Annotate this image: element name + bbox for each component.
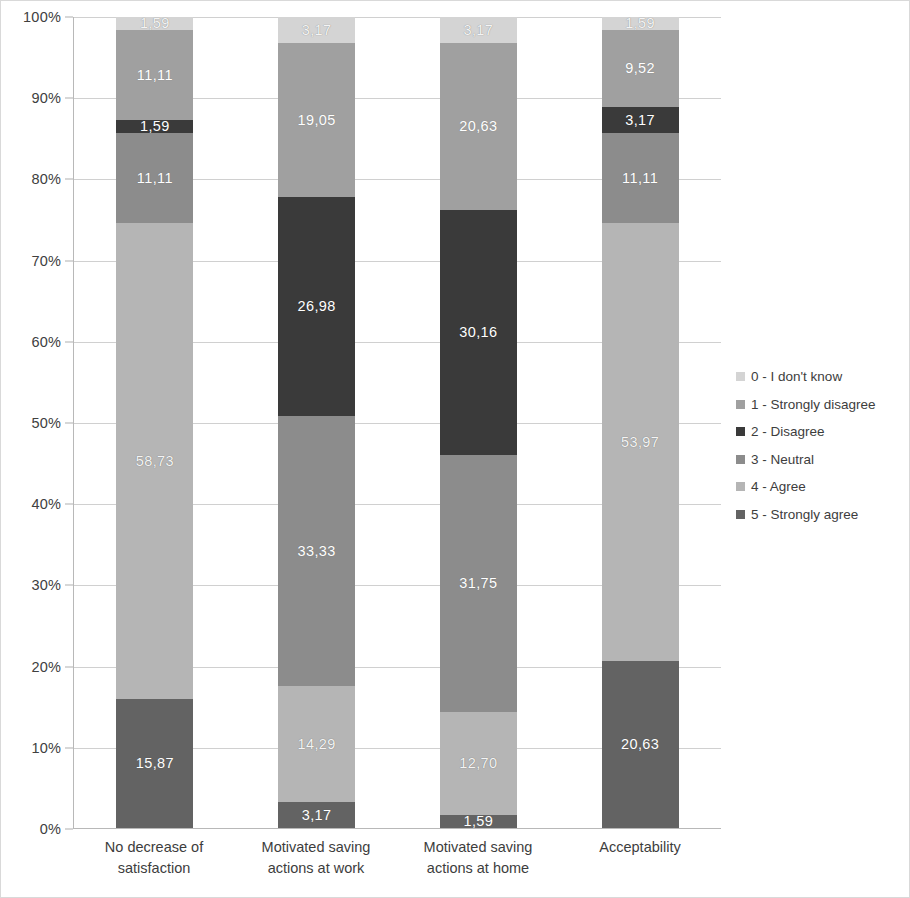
x-axis-category-label-line: No decrease of bbox=[73, 837, 235, 858]
x-axis-category-label-line: satisfaction bbox=[73, 858, 235, 879]
y-axis-tick-label: 10% bbox=[31, 740, 61, 756]
y-axis-tick-label: 60% bbox=[31, 334, 61, 350]
bar-segment-value-label: 11,11 bbox=[137, 68, 173, 83]
plot-area: 1,5911,111,5911,1158,7315,873,1719,0526,… bbox=[73, 17, 721, 829]
y-axis-tick-mark bbox=[65, 585, 73, 586]
x-axis-category-label-line: actions at work bbox=[235, 858, 397, 879]
bar-segment[interactable]: 3,17 bbox=[278, 802, 355, 828]
y-axis: 0%10%20%30%40%50%60%70%80%90%100% bbox=[1, 17, 73, 829]
bar-segment[interactable]: 31,75 bbox=[440, 455, 517, 713]
bar-segment-value-label: 14,29 bbox=[297, 737, 335, 752]
bar-segment-value-label: 11,11 bbox=[622, 171, 658, 186]
bar-group: 1,5911,111,5911,1158,7315,873,1719,0526,… bbox=[74, 17, 721, 828]
bar-segment-value-label: 3,17 bbox=[302, 23, 332, 38]
bar-segment[interactable]: 20,63 bbox=[602, 661, 679, 828]
bar-segment[interactable]: 11,11 bbox=[116, 30, 193, 120]
y-axis-tick-mark bbox=[65, 504, 73, 505]
bar-segment-value-label: 26,98 bbox=[297, 299, 335, 314]
y-axis-tick-label: 30% bbox=[31, 577, 61, 593]
bar-segment-value-label: 1,59 bbox=[140, 17, 170, 30]
stacked-bar[interactable]: 1,5911,111,5911,1158,7315,87 bbox=[116, 17, 193, 828]
bar-segment[interactable]: 19,05 bbox=[278, 43, 355, 198]
bar-segment[interactable]: 9,52 bbox=[602, 30, 679, 107]
legend-item[interactable]: 0 - I don't know bbox=[736, 369, 906, 384]
y-axis-tick-label: 90% bbox=[31, 90, 61, 106]
gridline bbox=[74, 829, 721, 830]
bar-segment[interactable]: 20,63 bbox=[440, 43, 517, 210]
bar-segment[interactable]: 3,17 bbox=[440, 17, 517, 43]
chart-figure: 0%10%20%30%40%50%60%70%80%90%100% 1,5911… bbox=[0, 0, 910, 898]
x-axis-category-label: Motivated savingactions at home bbox=[397, 837, 559, 893]
y-axis-tick-mark bbox=[65, 829, 73, 830]
bar-segment-value-label: 1,59 bbox=[625, 17, 655, 30]
y-axis-tick-label: 100% bbox=[23, 9, 61, 25]
y-axis-tick-label: 20% bbox=[31, 659, 61, 675]
bar-segment-value-label: 30,16 bbox=[459, 325, 497, 340]
legend-item[interactable]: 2 - Disagree bbox=[736, 424, 906, 439]
bar-segment[interactable]: 14,29 bbox=[278, 686, 355, 802]
legend-swatch-icon bbox=[736, 482, 745, 491]
y-axis-tick-mark bbox=[65, 666, 73, 667]
bar-segment-value-label: 20,63 bbox=[621, 737, 659, 752]
legend-label: 3 - Neutral bbox=[751, 452, 814, 467]
y-axis-tick-label: 80% bbox=[31, 171, 61, 187]
x-axis-category-label-line: Motivated saving bbox=[235, 837, 397, 858]
x-axis: No decrease ofsatisfactionMotivated savi… bbox=[73, 837, 721, 893]
y-axis-tick-label: 0% bbox=[40, 821, 61, 837]
legend-label: 2 - Disagree bbox=[751, 424, 825, 439]
bar-segment[interactable]: 15,87 bbox=[116, 699, 193, 828]
x-axis-category-label: No decrease ofsatisfaction bbox=[73, 837, 235, 893]
bar-segment-value-label: 15,87 bbox=[136, 756, 174, 771]
legend-item[interactable]: 4 - Agree bbox=[736, 479, 906, 494]
y-axis-tick-label: 70% bbox=[31, 253, 61, 269]
y-axis-tick-label: 40% bbox=[31, 496, 61, 512]
stacked-bar[interactable]: 3,1720,6330,1631,7512,701,59 bbox=[440, 17, 517, 828]
legend-label: 0 - I don't know bbox=[751, 369, 842, 384]
legend: 0 - I don't know1 - Strongly disagree2 -… bbox=[736, 369, 906, 534]
legend-label: 1 - Strongly disagree bbox=[751, 397, 876, 412]
y-axis-tick-mark bbox=[65, 98, 73, 99]
legend-item[interactable]: 1 - Strongly disagree bbox=[736, 397, 906, 412]
bar-segment[interactable]: 26,98 bbox=[278, 197, 355, 416]
bar-segment-value-label: 31,75 bbox=[459, 576, 497, 591]
bar-segment-value-label: 33,33 bbox=[297, 544, 335, 559]
bar-segment[interactable]: 1,59 bbox=[602, 17, 679, 30]
bar-segment-value-label: 3,17 bbox=[302, 808, 332, 823]
y-axis-tick-mark bbox=[65, 17, 73, 18]
y-axis-tick-label: 50% bbox=[31, 415, 61, 431]
legend-item[interactable]: 5 - Strongly agree bbox=[736, 507, 906, 522]
bar-segment[interactable]: 11,11 bbox=[602, 133, 679, 223]
bar-segment[interactable]: 33,33 bbox=[278, 416, 355, 686]
bar-segment[interactable]: 58,73 bbox=[116, 223, 193, 699]
bar-segment[interactable]: 12,70 bbox=[440, 712, 517, 815]
bar-segment-value-label: 19,05 bbox=[297, 113, 335, 128]
legend-swatch-icon bbox=[736, 510, 745, 519]
bar-segment-value-label: 53,97 bbox=[621, 435, 659, 450]
bar-segment-value-label: 1,59 bbox=[140, 120, 170, 133]
stacked-bar[interactable]: 1,599,523,1711,1153,9720,63 bbox=[602, 17, 679, 828]
legend-swatch-icon bbox=[736, 400, 745, 409]
stacked-bar[interactable]: 3,1719,0526,9833,3314,293,17 bbox=[278, 17, 355, 828]
bar-segment[interactable]: 1,59 bbox=[116, 17, 193, 30]
bar-slot: 1,599,523,1711,1153,9720,63 bbox=[559, 17, 721, 828]
legend-swatch-icon bbox=[736, 455, 745, 464]
legend-item[interactable]: 3 - Neutral bbox=[736, 452, 906, 467]
bar-slot: 3,1720,6330,1631,7512,701,59 bbox=[398, 17, 560, 828]
y-axis-tick-mark bbox=[65, 423, 73, 424]
bar-segment[interactable]: 3,17 bbox=[602, 107, 679, 133]
bar-segment-value-label: 11,11 bbox=[137, 171, 173, 186]
bar-segment[interactable]: 1,59 bbox=[116, 120, 193, 133]
y-axis-tick-mark bbox=[65, 341, 73, 342]
bar-segment[interactable]: 53,97 bbox=[602, 223, 679, 661]
bar-segment[interactable]: 30,16 bbox=[440, 210, 517, 455]
y-axis-tick-mark bbox=[65, 260, 73, 261]
x-axis-category-label-line: actions at home bbox=[397, 858, 559, 879]
bar-segment[interactable]: 3,17 bbox=[278, 17, 355, 43]
x-axis-category-label-line: Motivated saving bbox=[397, 837, 559, 858]
bar-segment[interactable]: 1,59 bbox=[440, 815, 517, 828]
bar-segment-value-label: 3,17 bbox=[463, 23, 493, 38]
y-axis-tick-mark bbox=[65, 179, 73, 180]
legend-swatch-icon bbox=[736, 427, 745, 436]
x-axis-category-label: Motivated savingactions at work bbox=[235, 837, 397, 893]
bar-segment[interactable]: 11,11 bbox=[116, 133, 193, 223]
